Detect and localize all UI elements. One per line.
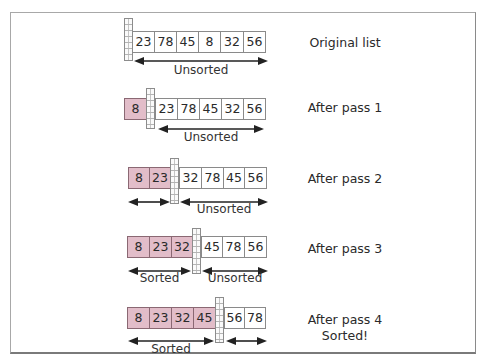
sorted-cell: 45 [193, 307, 216, 329]
pass-label: After pass 4 [290, 312, 400, 328]
pass-label: After pass 2 [290, 171, 400, 187]
cell: 23 [155, 98, 178, 120]
unsorted-label: Unsorted [134, 63, 268, 77]
cell: 78 [222, 236, 245, 258]
unsorted-label: Unsorted [180, 202, 268, 216]
cell: 32 [220, 31, 244, 53]
cell: 78 [244, 307, 266, 329]
pass-label: After pass 3 [290, 241, 400, 257]
wall-divider [146, 88, 155, 129]
cell: 45 [201, 236, 223, 258]
sorted-cell: 8 [128, 167, 150, 189]
sorted-cell: 8 [124, 98, 147, 120]
sorted-cell: 23 [149, 307, 172, 329]
wall-divider [192, 228, 201, 274]
sorted-cell: 32 [171, 236, 193, 258]
cell: 78 [154, 31, 177, 53]
cell: 23 [132, 31, 155, 53]
cell: 56 [243, 31, 266, 53]
pass-label: After pass 1 [290, 100, 400, 116]
cell: 45 [199, 98, 222, 120]
double-arrow-icon [128, 197, 170, 207]
cell: 8 [198, 31, 221, 53]
sorted-cell: 8 [127, 307, 150, 329]
wall-divider [170, 158, 179, 204]
cell: 45 [223, 167, 245, 189]
double-arrow-icon [226, 336, 267, 346]
cell: 32 [179, 167, 202, 189]
sorted-cell: 23 [149, 167, 171, 189]
sorted-cell: 8 [127, 236, 150, 258]
cell: 56 [244, 236, 267, 258]
cell: 56 [243, 98, 266, 120]
unsorted-label: Unsorted [202, 271, 268, 285]
pass-label: Original list [290, 35, 400, 51]
wall-divider [215, 297, 224, 343]
cell: 56 [224, 307, 245, 329]
sorted-cell: 32 [171, 307, 194, 329]
cell: 78 [177, 98, 200, 120]
sorted-label: Sorted [128, 342, 214, 356]
sorted-label: Sorted [128, 271, 191, 285]
unsorted-label: Unsorted [158, 130, 264, 144]
sorted-cell: 23 [149, 236, 172, 258]
cell: 78 [201, 167, 224, 189]
sorted-done-label: Sorted! [290, 328, 400, 344]
cell: 45 [176, 31, 199, 53]
cell: 32 [221, 98, 244, 120]
cell: 56 [244, 167, 267, 189]
